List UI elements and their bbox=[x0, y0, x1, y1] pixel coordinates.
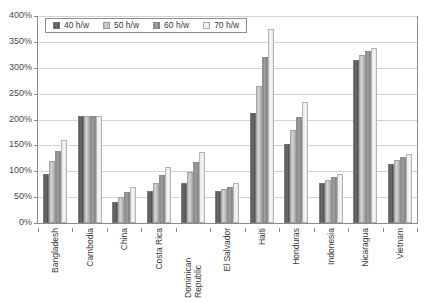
bar-group bbox=[43, 16, 67, 223]
x-axis-label-cell: Dominican Republic bbox=[176, 228, 210, 302]
x-axis-label: Dominican Republic bbox=[183, 228, 203, 298]
bar-group bbox=[250, 16, 274, 223]
y-axis-tick-label: 400% bbox=[9, 11, 32, 20]
y-axis-tick-label: 0% bbox=[19, 218, 32, 227]
legend-label: 60 h/w bbox=[164, 21, 189, 30]
bar[interactable] bbox=[165, 167, 171, 223]
x-axis-tick bbox=[107, 228, 108, 232]
y-axis-tick-label: 100% bbox=[9, 166, 32, 175]
x-axis-label: Haiti bbox=[257, 228, 267, 245]
legend-item[interactable]: 50 h/w bbox=[103, 21, 139, 30]
y-axis-tick-label: 300% bbox=[9, 63, 32, 72]
chart-legend: 40 h/w50 h/w60 h/w70 h/w bbox=[45, 18, 247, 33]
bar[interactable] bbox=[61, 140, 67, 223]
bar[interactable] bbox=[233, 183, 239, 223]
x-axis-label: Honduras bbox=[291, 228, 301, 265]
x-axis-tick bbox=[245, 228, 246, 232]
bar[interactable] bbox=[130, 187, 136, 223]
x-axis-tick bbox=[417, 228, 418, 232]
legend-label: 40 h/w bbox=[64, 21, 89, 30]
bar-group bbox=[78, 16, 102, 223]
x-axis-tick bbox=[348, 228, 349, 232]
y-axis-tick-label: 200% bbox=[9, 115, 32, 124]
bar-group bbox=[215, 16, 239, 223]
x-axis-label-cell: Indonesia bbox=[314, 228, 348, 302]
legend-swatch-icon bbox=[53, 22, 60, 29]
legend-item[interactable]: 70 h/w bbox=[203, 21, 239, 30]
x-axis-label-cell: Vietnam bbox=[383, 228, 417, 302]
x-axis-label: El Salvador bbox=[222, 228, 232, 271]
legend-swatch-icon bbox=[153, 22, 160, 29]
x-axis-label-cell: Haiti bbox=[245, 228, 279, 302]
x-axis-label-cell: Costa Rica bbox=[142, 228, 176, 302]
bar[interactable] bbox=[302, 102, 308, 223]
bar[interactable] bbox=[199, 152, 205, 223]
y-axis-tick-label: 50% bbox=[14, 192, 32, 201]
x-axis-label-cell: Honduras bbox=[279, 228, 313, 302]
y-axis-tick-label: 350% bbox=[9, 37, 32, 46]
x-axis-tick bbox=[279, 228, 280, 232]
bar-group bbox=[284, 16, 308, 223]
x-axis-tick bbox=[210, 228, 211, 232]
x-axis-label-cell: El Salvador bbox=[210, 228, 244, 302]
x-axis-tick bbox=[176, 228, 177, 232]
x-axis-label-cell: Cambodia bbox=[73, 228, 107, 302]
legend-item[interactable]: 60 h/w bbox=[153, 21, 189, 30]
x-axis-tick bbox=[141, 228, 142, 232]
y-axis-tick-label: 250% bbox=[9, 89, 32, 98]
x-axis-label: Indonesia bbox=[326, 228, 336, 265]
bar[interactable] bbox=[406, 154, 412, 223]
bar-group bbox=[112, 16, 136, 223]
bar[interactable] bbox=[371, 48, 377, 223]
bar-group bbox=[147, 16, 171, 223]
y-axis-tick bbox=[34, 223, 38, 224]
x-axis-label-cell: Nicaragua bbox=[348, 228, 382, 302]
grouped-bar-chart: 40 h/w50 h/w60 h/w70 h/w BangladeshCambo… bbox=[0, 0, 431, 302]
legend-label: 50 h/w bbox=[114, 21, 139, 30]
x-axis-label: Costa Rica bbox=[154, 228, 164, 270]
bar[interactable] bbox=[268, 29, 274, 223]
x-axis-label-cell: Bangladesh bbox=[38, 228, 72, 302]
bar[interactable] bbox=[337, 174, 343, 223]
y-axis-tick-label: 150% bbox=[9, 140, 32, 149]
bar-group bbox=[319, 16, 343, 223]
bar[interactable] bbox=[96, 116, 102, 223]
x-axis-label: Nicaragua bbox=[360, 228, 370, 267]
legend-label: 70 h/w bbox=[214, 21, 239, 30]
legend-swatch-icon bbox=[203, 22, 210, 29]
bar-group bbox=[181, 16, 205, 223]
x-axis-tick bbox=[72, 228, 73, 232]
x-axis-label: China bbox=[119, 228, 129, 250]
x-axis-tick bbox=[383, 228, 384, 232]
x-axis-label: Vietnam bbox=[395, 228, 405, 259]
x-axis-labels: BangladeshCambodiaChinaCosta RicaDominic… bbox=[38, 228, 417, 302]
bar-group bbox=[353, 16, 377, 223]
bar-group bbox=[388, 16, 412, 223]
x-axis-label: Bangladesh bbox=[50, 228, 60, 273]
x-axis-tick bbox=[314, 228, 315, 232]
legend-swatch-icon bbox=[103, 22, 110, 29]
x-axis-tick bbox=[38, 228, 39, 232]
x-axis-label-cell: China bbox=[107, 228, 141, 302]
x-axis-label: Cambodia bbox=[85, 228, 95, 267]
legend-item[interactable]: 40 h/w bbox=[53, 21, 89, 30]
bar-groups bbox=[38, 16, 417, 223]
